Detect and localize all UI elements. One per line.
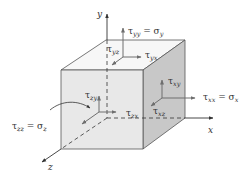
- y-axis-label: y: [96, 9, 103, 19]
- tau-yy-label: τyy = σy: [128, 26, 164, 38]
- z-axis: [42, 149, 61, 162]
- x-axis-label: x: [208, 125, 213, 135]
- tau-xx-label: τxx = σx: [203, 92, 239, 104]
- z-axis-label: z: [47, 162, 53, 172]
- tau-zz-label: τzz = σz: [12, 121, 47, 133]
- stress-cube-diagram: y x z τyy = σy τyz τyx τxy τxx = σx τxz …: [0, 0, 244, 179]
